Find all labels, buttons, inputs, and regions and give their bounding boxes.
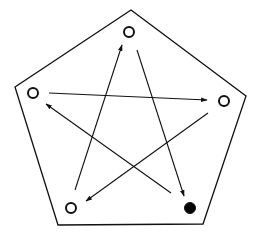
pentagon-outline — [15, 10, 246, 225]
node-top — [124, 27, 134, 37]
arrow-left-to-right — [49, 93, 207, 100]
pentagon-star-diagram — [0, 0, 261, 236]
arrow-edges — [46, 45, 208, 201]
arrow-bottom-right-to-left — [46, 104, 171, 193]
arrow-bottom-left-to-top — [75, 45, 122, 190]
node-left — [28, 88, 38, 98]
arrow-right-to-bottom-left — [86, 113, 208, 201]
node-right — [219, 96, 229, 106]
node-bottom-right-filled — [185, 203, 196, 214]
node-bottom-left — [66, 203, 76, 213]
